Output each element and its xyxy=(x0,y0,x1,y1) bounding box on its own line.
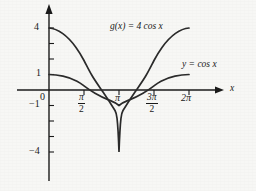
origin-label: 0 xyxy=(40,92,45,102)
curve-label-g-of-x: g(x) = 4 cos x xyxy=(110,22,163,32)
three-pi-over-2-denominator: 2 xyxy=(146,105,158,115)
x-axis xyxy=(17,86,224,93)
cosine-graph-figure: 4 1 −1 −4 0 π 2 π 3π 2 2π x g(x) = 4 cos… xyxy=(0,0,256,191)
pi-over-2-denominator: 2 xyxy=(78,105,85,115)
y-tick-label-neg-1: −1 xyxy=(29,99,40,109)
y-axis xyxy=(45,4,52,181)
x-axis-name-label: x xyxy=(230,84,234,94)
three-pi-over-2-numerator: 3π xyxy=(146,93,158,103)
y-tick-label-1: 1 xyxy=(36,68,41,78)
y-tick-label-4: 4 xyxy=(34,22,39,32)
curve-label-y-equals-cos-x: y = cos x xyxy=(182,60,217,70)
pi-over-2-numerator: π xyxy=(78,93,85,103)
x-tick-label-3pi-over-2: 3π 2 xyxy=(146,93,158,114)
y-tick-label-neg-4: −4 xyxy=(29,146,40,156)
x-tick-label-pi-over-2: π 2 xyxy=(78,93,85,114)
x-tick-label-2pi: 2π xyxy=(181,93,191,103)
x-tick-label-pi: π xyxy=(115,93,120,103)
